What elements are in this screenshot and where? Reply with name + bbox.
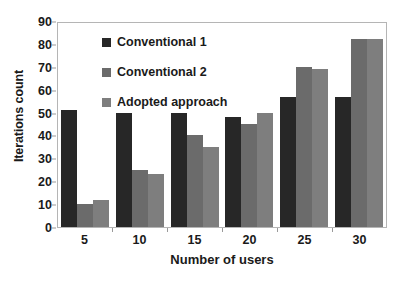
bar-30-series-1 bbox=[335, 97, 351, 227]
bar-15-series-2 bbox=[187, 135, 203, 227]
x-axis-tick-mark bbox=[112, 228, 113, 232]
bar-30-series-2 bbox=[351, 39, 367, 227]
y-axis-title-text: Iterations count bbox=[12, 70, 26, 162]
legend-swatch-icon bbox=[102, 38, 111, 47]
y-axis-tick-label: 0 bbox=[45, 222, 52, 235]
plot-area: Conventional 1Conventional 2Adopted appr… bbox=[57, 22, 387, 228]
legend-swatch-icon bbox=[102, 98, 111, 107]
bar-group-30 bbox=[331, 23, 386, 227]
y-axis-tick-label: 10 bbox=[38, 199, 52, 212]
bar-group-25 bbox=[277, 23, 332, 227]
bar-15-series-1 bbox=[171, 113, 187, 227]
bar-25-series-2 bbox=[296, 67, 312, 227]
y-axis-tick-mark bbox=[52, 182, 56, 183]
x-axis-tick-label: 5 bbox=[81, 234, 88, 247]
bar-20-series-2 bbox=[241, 124, 257, 227]
bar-25-series-3 bbox=[312, 69, 328, 227]
legend-swatch-icon bbox=[102, 68, 111, 77]
legend-label: Adopted approach bbox=[117, 96, 227, 109]
legend-item-1: Conventional 1 bbox=[102, 27, 227, 57]
y-axis-tick-label: 30 bbox=[38, 153, 52, 166]
legend-item-2: Conventional 2 bbox=[102, 57, 227, 87]
bar-chart-figure: Iterations count 0102030405060708090 Con… bbox=[0, 0, 402, 282]
bar-5-series-1 bbox=[61, 110, 77, 227]
legend-label: Conventional 1 bbox=[117, 36, 207, 49]
x-axis-tick-label: 30 bbox=[353, 234, 367, 247]
legend-label: Conventional 2 bbox=[117, 66, 207, 79]
x-axis-tick-label: 20 bbox=[243, 234, 257, 247]
x-axis-tick-mark bbox=[222, 228, 223, 232]
bar-5-series-3 bbox=[93, 200, 109, 227]
x-axis-tick-label: 25 bbox=[298, 234, 312, 247]
y-axis-tick-label: 90 bbox=[38, 16, 52, 29]
chart-legend: Conventional 1Conventional 2Adopted appr… bbox=[102, 27, 227, 117]
bar-20-series-1 bbox=[225, 117, 241, 227]
y-axis-tick-label: 70 bbox=[38, 62, 52, 75]
x-axis-tick-label: 10 bbox=[133, 234, 147, 247]
y-axis-tick-label: 20 bbox=[38, 176, 52, 189]
legend-item-3: Adopted approach bbox=[102, 87, 227, 117]
bar-20-series-3 bbox=[257, 113, 273, 227]
y-axis-tick-mark bbox=[52, 67, 56, 68]
y-axis-tick-mark bbox=[52, 44, 56, 45]
bar-10-series-1 bbox=[116, 113, 132, 227]
y-axis-tick-label: 80 bbox=[38, 39, 52, 52]
x-axis-tick-label: 15 bbox=[188, 234, 202, 247]
x-axis-tick-mark bbox=[332, 228, 333, 232]
bar-group-20 bbox=[222, 23, 277, 227]
y-axis-tick-mark bbox=[52, 22, 56, 23]
bar-30-series-3 bbox=[367, 39, 383, 227]
x-axis-tick-mark bbox=[277, 228, 278, 232]
y-axis-tick-label: 60 bbox=[38, 84, 52, 97]
bar-5-series-2 bbox=[77, 204, 93, 227]
y-axis-tick-label: 40 bbox=[38, 130, 52, 143]
bar-15-series-3 bbox=[203, 147, 219, 227]
x-axis-tick-mark bbox=[167, 228, 168, 232]
y-axis-tick-mark bbox=[52, 136, 56, 137]
bar-10-series-2 bbox=[132, 170, 148, 227]
y-axis-tick-label: 50 bbox=[38, 107, 52, 120]
x-axis-title: Number of users bbox=[57, 252, 387, 267]
bar-10-series-3 bbox=[148, 174, 164, 227]
y-axis-tick-mark bbox=[52, 228, 56, 229]
y-axis-tick-mark bbox=[52, 90, 56, 91]
y-axis-tick-mark bbox=[52, 159, 56, 160]
x-axis-title-text: Number of users bbox=[170, 252, 273, 267]
y-axis-tick-mark bbox=[52, 205, 56, 206]
x-axis-tick-labels: 51015202530 bbox=[57, 228, 387, 250]
bar-25-series-1 bbox=[280, 97, 296, 227]
y-axis-tick-mark bbox=[52, 113, 56, 114]
y-axis-tick-labels: 0102030405060708090 bbox=[26, 22, 52, 228]
